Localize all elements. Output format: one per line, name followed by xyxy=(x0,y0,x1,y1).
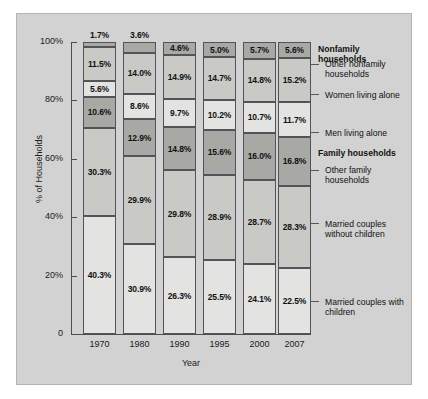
bar-segment[interactable]: 15.2% xyxy=(278,58,311,102)
bar-column-2007[interactable]: 22.5%28.3%16.8%11.7%15.2%5.6% xyxy=(278,42,311,334)
callout-leader-line xyxy=(310,170,319,171)
bar-segment[interactable]: 40.3% xyxy=(83,216,116,334)
bar-segment-value: 5.6% xyxy=(285,45,304,55)
bar-segment-value: 30.3% xyxy=(88,167,112,177)
bar-segment-value: 10.2% xyxy=(208,110,232,120)
bar-segment-value: 28.7% xyxy=(248,217,272,227)
bar-segment[interactable]: 11.7% xyxy=(278,102,311,136)
y-tick-label: 0 xyxy=(29,329,63,338)
callout-label-men-alone: Men living alone xyxy=(325,128,415,138)
callout-label-married-with: Married couples with children xyxy=(325,297,415,317)
bar-segment-value: 16.8% xyxy=(283,156,307,166)
bar-segment-value: 22.5% xyxy=(283,296,307,306)
bar-segment-value: 11.7% xyxy=(283,115,306,125)
callout-label-married-without: Married couples without children xyxy=(325,219,415,239)
bar-segment[interactable]: 3.6% xyxy=(123,42,156,53)
bar-segment[interactable]: 14.0% xyxy=(123,53,156,94)
bar-column-1990[interactable]: 26.3%29.8%14.8%9.7%14.9%4.6% xyxy=(163,42,196,334)
bar-segment[interactable]: 30.9% xyxy=(123,244,156,334)
y-tick-label: 40% xyxy=(29,212,63,221)
bar-segment-value: 14.9% xyxy=(168,72,192,82)
bar-segment[interactable]: 14.8% xyxy=(243,59,276,102)
bar-segment[interactable]: 16.8% xyxy=(278,137,311,186)
bar-segment[interactable]: 26.3% xyxy=(163,257,196,334)
y-tick-label: 80% xyxy=(29,95,63,104)
bar-segment[interactable]: 5.6% xyxy=(83,81,116,97)
y-tick-label: 60% xyxy=(29,154,63,163)
bar-segment[interactable]: 14.9% xyxy=(163,55,196,99)
bar-segment-value: 8.6% xyxy=(130,101,149,111)
bar-segment-value: 26.3% xyxy=(168,291,192,301)
bar-segment[interactable]: 29.9% xyxy=(123,156,156,243)
callout-leader-line xyxy=(310,94,319,95)
bar-segment[interactable]: 11.5% xyxy=(83,47,116,81)
x-tick-label-1990: 1990 xyxy=(163,339,196,349)
bar-segment[interactable]: 10.7% xyxy=(243,102,276,133)
bar-column-2000[interactable]: 24.1%28.7%16.0%10.7%14.8%5.7% xyxy=(243,42,276,334)
bar-segment-value: 14.0% xyxy=(128,68,152,78)
callout-label-family-head: Family households xyxy=(318,148,408,158)
bar-segment-value: 29.9% xyxy=(128,195,152,205)
bar-column-1980[interactable]: 30.9%29.9%12.9%8.6%14.0%3.6% xyxy=(123,42,156,334)
y-tick-label: 100% xyxy=(29,37,63,46)
bar-segment-value: 10.6% xyxy=(88,107,112,117)
bar-segment[interactable]: 24.1% xyxy=(243,264,276,334)
bar-segment-value: 4.6% xyxy=(170,43,189,53)
callout-label-other-nonfamily: Other nonfamily households xyxy=(325,59,415,79)
bar-segment[interactable]: 5.6% xyxy=(278,42,311,58)
bar-segment-value: 14.8% xyxy=(168,144,192,154)
y-tick-mark xyxy=(71,159,77,160)
bar-segment-value: 10.7% xyxy=(248,112,272,122)
bar-segment[interactable]: 29.8% xyxy=(163,170,196,257)
bar-segment-value: 24.1% xyxy=(248,294,272,304)
plot-area: 40.3%30.3%10.6%5.6%11.5%1.7%30.9%29.9%12… xyxy=(71,42,309,334)
y-tick-label: 20% xyxy=(29,271,63,280)
bar-segment[interactable]: 12.9% xyxy=(123,119,156,157)
bar-segment[interactable]: 28.9% xyxy=(203,175,236,259)
bar-segment-value: 9.7% xyxy=(170,108,189,118)
bar-segment-value: 25.5% xyxy=(208,292,232,302)
x-tick-label-1970: 1970 xyxy=(83,339,116,349)
bar-segment[interactable]: 15.6% xyxy=(203,130,236,176)
bar-segment-value: 30.9% xyxy=(128,284,152,294)
bar-segment[interactable]: 8.6% xyxy=(123,94,156,119)
bar-segment-value: 11.5% xyxy=(88,59,111,69)
bar-segment[interactable]: 5.7% xyxy=(243,42,276,59)
bar-segment[interactable]: 5.0% xyxy=(203,42,236,57)
y-tick-mark xyxy=(71,100,77,101)
bar-segment[interactable]: 22.5% xyxy=(278,268,311,334)
x-tick-label-1995: 1995 xyxy=(203,339,236,349)
bar-segment-value: 14.7% xyxy=(208,73,232,83)
x-tick-label-1980: 1980 xyxy=(123,339,156,349)
bar-segment[interactable]: 14.7% xyxy=(203,57,236,100)
bar-segment[interactable]: 14.8% xyxy=(163,127,196,170)
bar-segment[interactable]: 1.7% xyxy=(83,42,116,47)
bar-segment-value: 5.7% xyxy=(250,45,269,55)
callout-label-women-alone: Women living alone xyxy=(325,90,415,100)
bar-segment-value: 12.9% xyxy=(128,133,152,143)
bar-segment[interactable]: 4.6% xyxy=(163,42,196,55)
bar-segment-value: 28.9% xyxy=(208,212,232,222)
callout-leader-line xyxy=(310,132,319,133)
x-tick-label-2007: 2007 xyxy=(278,339,311,349)
y-axis-tick-labels: 100%80%60%40%20%0 xyxy=(29,14,63,384)
bar-column-1995[interactable]: 25.5%28.9%15.6%10.2%14.7%5.0% xyxy=(203,42,236,334)
bar-segment-value: 5.0% xyxy=(210,45,229,55)
bar-segment[interactable]: 16.0% xyxy=(243,133,276,180)
bar-segment[interactable]: 28.3% xyxy=(278,186,311,269)
x-axis-title: Year xyxy=(71,358,311,368)
bar-segment[interactable]: 10.2% xyxy=(203,100,236,130)
callout-leader-line xyxy=(310,223,319,224)
callout-leader-line xyxy=(310,64,319,65)
bar-segment[interactable]: 25.5% xyxy=(203,260,236,334)
bar-segment[interactable]: 9.7% xyxy=(163,99,196,127)
bar-segment-value: 16.0% xyxy=(248,151,272,161)
bar-segment[interactable]: 28.7% xyxy=(243,180,276,264)
bar-segment[interactable]: 10.6% xyxy=(83,97,116,128)
callout-leader-line xyxy=(310,301,319,302)
x-tick-label-2000: 2000 xyxy=(243,339,276,349)
bar-segment-value: 14.8% xyxy=(248,75,272,85)
bar-column-1970[interactable]: 40.3%30.3%10.6%5.6%11.5%1.7% xyxy=(83,42,116,334)
y-tick-mark xyxy=(71,276,77,277)
bar-segment[interactable]: 30.3% xyxy=(83,128,116,216)
